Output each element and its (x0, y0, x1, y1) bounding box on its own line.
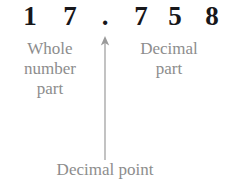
digit-decimal-1: 7 (129, 0, 153, 32)
digit-decimal-2: 5 (163, 0, 187, 32)
digit-whole-2: 7 (58, 0, 82, 32)
digit-decimal-3: 8 (200, 0, 224, 32)
decimal-number-diagram: 1 7 . 7 5 8 Whole number part Decimal pa… (0, 0, 234, 191)
decimal-point-glyph: . (93, 0, 117, 32)
digit-whole-1: 1 (18, 0, 42, 32)
decimal-part-label: Decimal part (114, 39, 224, 79)
up-arrow-icon (96, 34, 114, 160)
decimal-point-label: Decimal point (15, 160, 195, 180)
number-display: 1 7 . 7 5 8 (0, 0, 234, 36)
whole-number-part-label: Whole number part (4, 39, 96, 99)
